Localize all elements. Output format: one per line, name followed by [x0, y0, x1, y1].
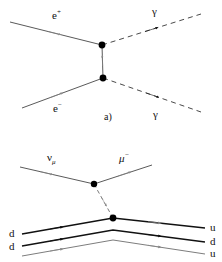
quark-out-bottom-label: u [210, 248, 216, 259]
feynman-diagram-canvas [0, 0, 222, 262]
feynman-figure: e+ γ e− γ a) νμ μ− d d u d u [0, 0, 222, 262]
positron-in-arrow-icon [48, 32, 60, 35]
quark-out-middle-label: d [210, 236, 216, 247]
panel-a-lower-vertex-dot [100, 75, 107, 82]
quark-in-top-label: d [9, 228, 15, 239]
photon-out-top-arrow-icon [145, 28, 157, 32]
muon-out-arrow-icon [118, 172, 130, 176]
w-boson-arrow-icon [101, 197, 106, 206]
panel-a-upper-vertex-dot [99, 42, 106, 49]
electron-in-line [22, 78, 103, 108]
quark-line-middle [22, 230, 205, 246]
panel-b-quark-vertex-dot [110, 215, 117, 222]
electron-label: e− [53, 103, 62, 114]
panel-b-lepton-vertex-dot [91, 181, 97, 187]
muon-label: μ− [119, 153, 129, 164]
quark-line-bottom-arrow-out-icon [148, 245, 160, 247]
photon-top-label: γ [152, 6, 157, 17]
neutrino-label: νμ [47, 152, 56, 163]
panel-a-caption: a) [104, 112, 112, 122]
neutrino-label-subscript: μ [52, 158, 56, 166]
positron-label: e+ [52, 10, 61, 21]
neutrino-in-arrow-icon [40, 172, 52, 175]
panel-a-group [10, 14, 201, 112]
panel-b-group [20, 165, 205, 256]
quark-line-bottom-arrow-in-icon [50, 249, 62, 251]
quark-in-bottom-label: d [9, 241, 15, 252]
positron-label-charge: + [57, 8, 61, 16]
quark-out-top-label: u [210, 222, 216, 233]
electron-label-charge: − [58, 101, 62, 109]
photon-out-bottom-arrow-icon [146, 93, 158, 97]
muon-label-charge: − [125, 151, 130, 159]
neutrino-in-line [20, 167, 94, 184]
photon-bottom-label: γ [153, 109, 158, 120]
quark-line-bottom [22, 240, 205, 256]
electron-in-arrow-icon [50, 93, 62, 97]
